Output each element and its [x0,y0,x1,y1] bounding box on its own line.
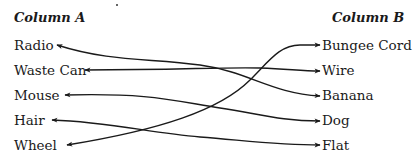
link-waste-can-wire [85,68,320,71]
link-mouse-dog [65,95,320,121]
connection-lines [0,0,419,160]
